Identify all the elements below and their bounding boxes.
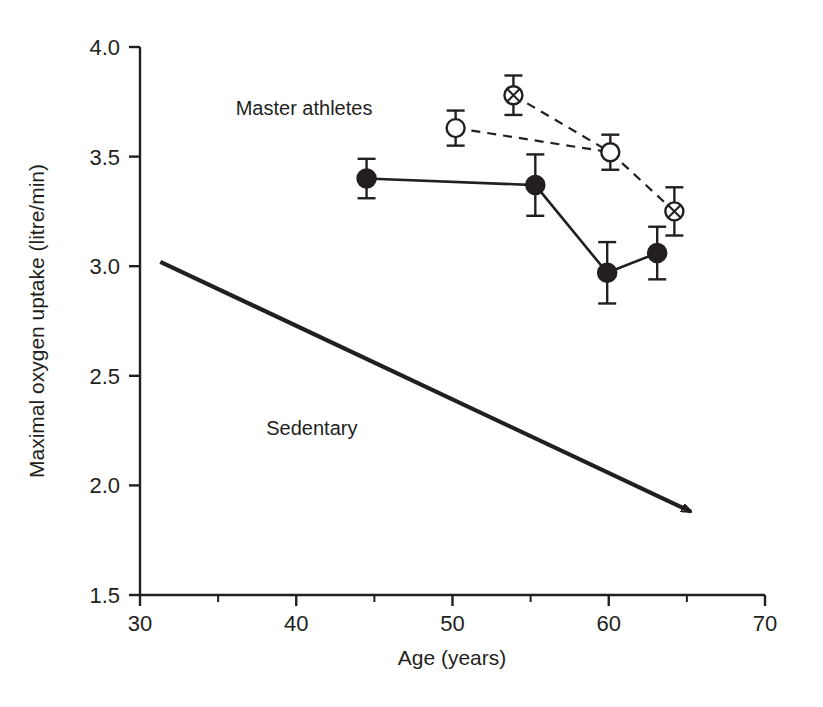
chart-canvas: 1.52.02.53.03.54.0 3040506070 Master ath… xyxy=(0,0,823,707)
chart-background xyxy=(0,0,823,707)
marker-filled-circle xyxy=(648,244,667,263)
y-tick-label: 1.5 xyxy=(89,583,120,608)
y-tick-label: 3.5 xyxy=(89,145,120,170)
x-axis-title: Age (years) xyxy=(398,646,507,669)
y-tick-label: 2.0 xyxy=(89,473,120,498)
x-tick-label: 50 xyxy=(440,611,464,636)
x-tick-label: 60 xyxy=(597,611,621,636)
marker-open-circle xyxy=(447,119,465,137)
x-tick-label: 40 xyxy=(284,611,308,636)
chart-annotation-label: Sedentary xyxy=(266,417,357,439)
y-tick-label: 4.0 xyxy=(89,35,120,60)
x-tick-label: 70 xyxy=(753,611,777,636)
chart-figure: 1.52.02.53.03.54.0 3040506070 Master ath… xyxy=(0,0,823,707)
chart-annotation-label: Master athletes xyxy=(236,97,373,119)
marker-filled-circle xyxy=(526,176,545,195)
marker-filled-circle xyxy=(598,263,617,282)
y-axis-title: Maximal oxygen uptake (litre/min) xyxy=(25,164,48,478)
x-tick-label: 30 xyxy=(128,611,152,636)
y-tick-label: 3.0 xyxy=(89,254,120,279)
marker-open-circle xyxy=(601,143,619,161)
y-tick-label: 2.5 xyxy=(89,364,120,389)
marker-filled-circle xyxy=(357,169,376,188)
